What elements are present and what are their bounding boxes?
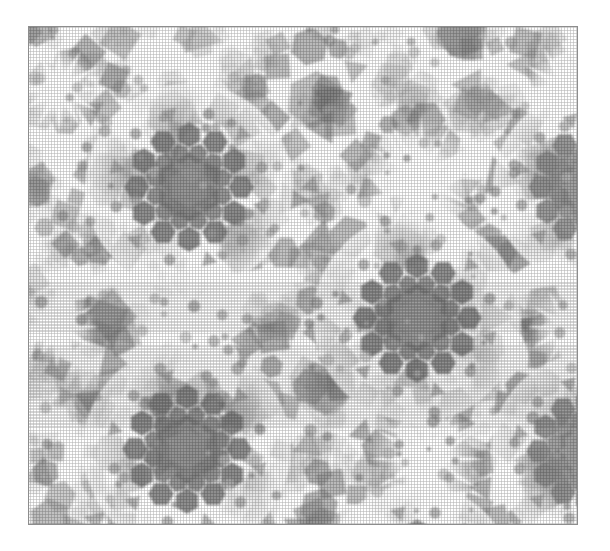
pattern-frame [28,26,578,525]
figure-root [0,0,610,551]
quasicrystal-pattern-canvas [29,27,577,524]
